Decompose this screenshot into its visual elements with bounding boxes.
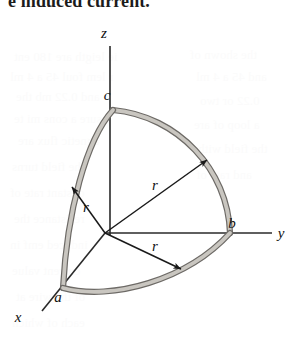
x-axis-line — [42, 233, 105, 311]
radius-arrows-group — [72, 160, 207, 269]
radius-label-upper-right: r — [152, 177, 158, 193]
radius-label-upper-left: r — [83, 199, 89, 215]
radius-arrow-lower-right — [105, 233, 181, 269]
axis-label-y: y — [276, 225, 285, 241]
figure-root: ie leigth are 180 entr lem foul 45 a 4 m… — [0, 0, 307, 344]
octant-loop-diagram: z y x c b a r r r — [0, 0, 307, 344]
point-label-b: b — [228, 215, 236, 231]
axis-label-z: z — [100, 25, 107, 41]
point-label-c: c — [104, 87, 111, 103]
radius-arrow-upper-right — [105, 160, 207, 233]
axis-label-x: x — [14, 309, 22, 325]
wire-arc-a-to-b-core — [63, 233, 230, 292]
point-label-a: a — [54, 289, 62, 305]
radius-label-lower-right: r — [152, 238, 158, 254]
